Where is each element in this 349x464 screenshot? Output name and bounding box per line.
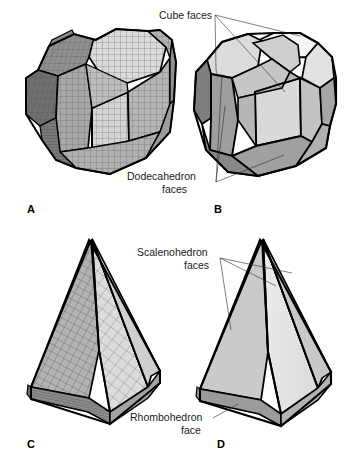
- callout-rhombohedron-face-line1: Rhombohedron: [130, 411, 203, 423]
- callout-dodecahedron-faces-line2: faces: [162, 183, 187, 195]
- panel-letter-b: B: [214, 203, 222, 215]
- crystal-forms-figure: A B C: [0, 0, 349, 464]
- panel-letter-a: A: [27, 203, 35, 215]
- panel-letter-d: D: [217, 438, 225, 450]
- callout-dodecahedron-faces-line1: Dodecahedron: [127, 170, 196, 182]
- callout-rhombohedron-face-line2: face: [181, 424, 201, 436]
- callout-cube-faces-label: Cube faces: [159, 9, 212, 21]
- panel-a-mesh-left-strip: [26, 70, 58, 126]
- callout-scalenohedron-faces-line2: faces: [184, 259, 209, 271]
- panel-letter-c: C: [27, 438, 35, 450]
- figure-root: A B C: [0, 0, 349, 464]
- callout-scalenohedron-faces-line1: Scalenohedron: [137, 246, 208, 258]
- panel-a-mesh-leftfront: [56, 64, 92, 152]
